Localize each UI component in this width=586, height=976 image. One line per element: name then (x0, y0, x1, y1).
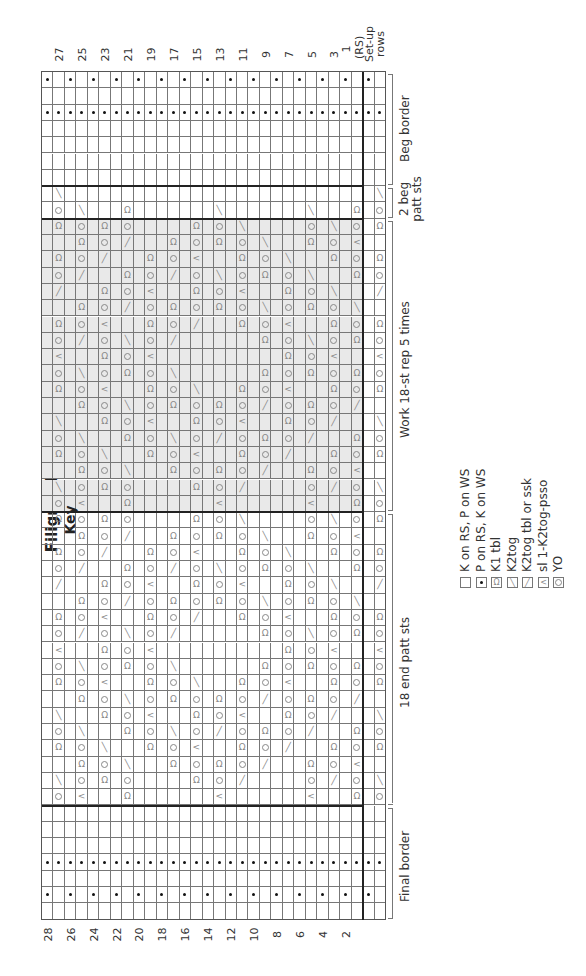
chart-cell (53, 333, 64, 349)
chart-cell (76, 854, 87, 870)
yo-icon (193, 402, 200, 409)
chart-cell (375, 105, 386, 121)
chart-cell: ╱ (122, 235, 133, 251)
sl1-k2tog-psso-icon: < (537, 577, 548, 588)
chart-cell: < (145, 349, 156, 365)
chart-cell (111, 561, 122, 577)
chart-cell (248, 675, 259, 691)
chart-cell (191, 463, 202, 479)
chart-cell (168, 806, 179, 822)
chart-cell (122, 773, 133, 789)
chart-cell (375, 300, 386, 316)
chart-cell (53, 72, 64, 88)
chart-cell: Ω (76, 463, 87, 479)
chart-cell (363, 300, 374, 316)
yo-icon (376, 630, 383, 637)
chart-cell (260, 740, 271, 756)
chart-cell (260, 284, 271, 300)
chart-cell (317, 724, 328, 740)
chart-cell: Ω (237, 382, 248, 398)
yo-icon (78, 679, 85, 686)
chart-cell (65, 708, 76, 724)
chart-cell (42, 251, 53, 267)
chart-cell (363, 610, 374, 626)
yo-icon (239, 728, 246, 735)
row-number-label: 15 (190, 45, 203, 65)
chart-cell (203, 691, 214, 707)
chart-cell (42, 659, 53, 675)
chart-cell: < (237, 414, 248, 430)
yo-icon (262, 549, 269, 556)
chart-cell (294, 284, 305, 300)
yo-icon (216, 288, 223, 295)
chart-cell: Ω (122, 496, 133, 512)
chart-cell (122, 675, 133, 691)
yo-icon (147, 272, 154, 279)
chart-cell (294, 251, 305, 267)
chart-cell (191, 72, 202, 88)
chart-cell: Ω (306, 691, 317, 707)
chart-cell (363, 349, 374, 365)
chart-cell (271, 365, 282, 381)
chart-cell (248, 382, 259, 398)
chart-cell (237, 838, 248, 854)
yo-icon (147, 663, 154, 670)
chart-cell (214, 186, 225, 202)
chart-cell (76, 903, 87, 919)
chart-cell (168, 447, 179, 463)
yo-icon (262, 386, 269, 393)
chart-cell (260, 789, 271, 805)
chart-cell: ╱ (53, 284, 64, 300)
chart-cell (134, 414, 145, 430)
chart-cell: < (375, 643, 386, 659)
key-label: K on RS, P on WS (458, 469, 472, 572)
chart-cell (157, 789, 168, 805)
chart-cell (214, 675, 225, 691)
chart-cell: Ω (283, 708, 294, 724)
chart-cell (317, 251, 328, 267)
chart-cell (180, 398, 191, 414)
chart-cell: ╱ (306, 724, 317, 740)
chart-cell (42, 284, 53, 300)
yo-icon (78, 321, 85, 328)
yo-icon (376, 337, 383, 344)
chart-cell (306, 154, 317, 170)
chart-cell (214, 659, 225, 675)
chart-cell (134, 365, 145, 381)
chart-cell (99, 903, 110, 919)
purl-dot-icon (252, 861, 255, 864)
chart-cell (122, 154, 133, 170)
chart-cell (283, 235, 294, 251)
chart-cell (111, 887, 122, 903)
yo-icon (193, 435, 200, 442)
yo-icon (124, 288, 131, 295)
chart-cell (237, 333, 248, 349)
chart-cell: < (145, 284, 156, 300)
chart-cell (145, 871, 156, 887)
chart-cell (317, 365, 328, 381)
chart-cell: Ω (260, 333, 271, 349)
chart-cell (157, 72, 168, 88)
chart-cell (180, 757, 191, 773)
chart-cell (168, 88, 179, 104)
chart-cell (294, 349, 305, 365)
chart-cell: Ω (306, 463, 317, 479)
yo-icon (124, 418, 131, 425)
yo-icon (147, 337, 154, 344)
chart-cell (237, 72, 248, 88)
chart-cell (65, 154, 76, 170)
chart-cell (226, 235, 237, 251)
chart-cell: Ω (99, 512, 110, 528)
yo-icon (308, 353, 315, 360)
chart-cell (65, 447, 76, 463)
chart-cell (157, 365, 168, 381)
chart-cell (180, 154, 191, 170)
chart-cell (168, 887, 179, 903)
chart-cell (294, 202, 305, 218)
chart-cell (375, 561, 386, 577)
chart-cell (168, 251, 179, 267)
chart-cell (294, 594, 305, 610)
chart-cell (65, 561, 76, 577)
chart-cell (283, 871, 294, 887)
chart-cell (271, 202, 282, 218)
